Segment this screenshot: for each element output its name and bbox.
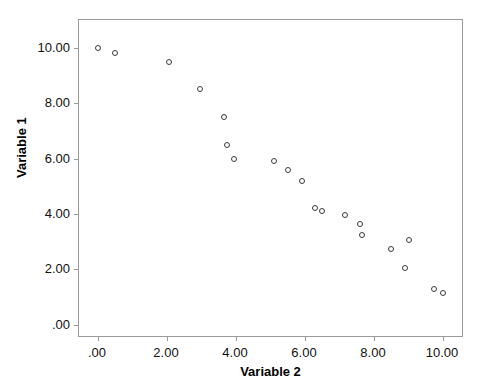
y-axis-tick-label: 2.00 — [45, 261, 70, 276]
plot-area — [79, 20, 462, 336]
y-axis-tick — [74, 325, 79, 326]
data-point — [388, 246, 394, 252]
data-point — [342, 212, 348, 218]
data-point — [112, 50, 118, 56]
x-axis-tick-label: 6.00 — [291, 345, 316, 360]
data-point — [319, 208, 325, 214]
data-point — [357, 221, 363, 227]
data-point — [231, 156, 237, 162]
y-axis-tick-label: 4.00 — [45, 206, 70, 221]
y-axis-tick — [74, 269, 79, 270]
y-axis-tick-label: 6.00 — [45, 150, 70, 165]
x-axis-tick-labels: .002.004.006.008.0010.00 — [78, 345, 463, 363]
data-point — [197, 86, 203, 92]
data-point — [406, 237, 412, 243]
data-point — [224, 142, 230, 148]
data-point — [402, 265, 408, 271]
x-axis-tick-label: 4.00 — [222, 345, 247, 360]
plot-frame — [78, 19, 463, 337]
data-point — [221, 114, 227, 120]
y-axis-tick — [74, 48, 79, 49]
data-point — [359, 232, 365, 238]
x-axis-title: Variable 2 — [78, 364, 463, 379]
data-point — [271, 158, 277, 164]
y-axis-tick — [74, 103, 79, 104]
data-point — [312, 205, 318, 211]
y-axis-tick-label: .00 — [52, 316, 70, 331]
y-axis-tick-labels: .002.004.006.008.0010.00 — [0, 19, 70, 337]
scatter-plot-figure: Variable 1 .002.004.006.008.0010.00 .002… — [0, 0, 481, 387]
data-point — [285, 167, 291, 173]
data-point — [431, 286, 437, 292]
x-axis-tick — [443, 336, 444, 341]
y-axis-tick — [74, 214, 79, 215]
data-point — [166, 59, 172, 65]
y-axis-tick-label: 10.00 — [37, 39, 70, 54]
x-axis-tick — [167, 336, 168, 341]
data-point — [299, 178, 305, 184]
x-axis-tick — [305, 336, 306, 341]
x-axis-tick — [374, 336, 375, 341]
x-axis-tick-label: .00 — [88, 345, 106, 360]
x-axis-tick — [236, 336, 237, 341]
x-axis-tick-label: 2.00 — [153, 345, 178, 360]
y-axis-tick — [74, 159, 79, 160]
x-axis-tick-label: 8.00 — [360, 345, 385, 360]
x-axis-tick — [98, 336, 99, 341]
y-axis-tick-label: 8.00 — [45, 95, 70, 110]
x-axis-tick-label: 10.00 — [426, 345, 459, 360]
data-point — [440, 290, 446, 296]
data-point — [95, 45, 101, 51]
